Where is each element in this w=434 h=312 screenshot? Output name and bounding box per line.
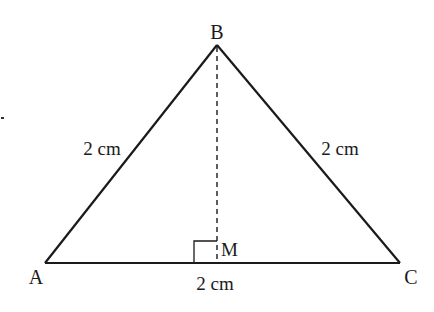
side-label-AC: 2 cm <box>196 273 234 294</box>
stray-mark <box>1 117 4 119</box>
vertex-label-B: B <box>210 21 223 43</box>
vertex-label-C: C <box>404 266 417 288</box>
side-label-AB: 2 cm <box>83 138 121 159</box>
side-AB <box>45 45 217 263</box>
right-angle-marker <box>194 241 217 263</box>
diagram-svg: B A C M 2 cm 2 cm 2 cm <box>0 0 434 312</box>
side-BC <box>217 45 400 263</box>
side-label-BC: 2 cm <box>321 138 359 159</box>
vertex-label-A: A <box>29 266 44 288</box>
triangle-diagram: B A C M 2 cm 2 cm 2 cm <box>0 0 434 312</box>
foot-label-M: M <box>221 239 238 260</box>
